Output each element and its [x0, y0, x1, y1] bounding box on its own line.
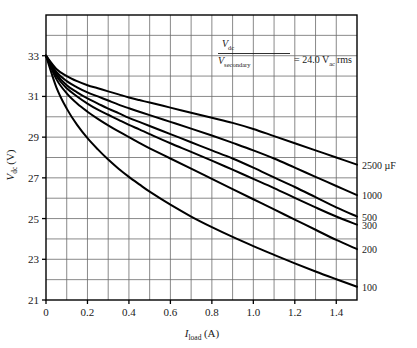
- y-tick-label: 25: [28, 213, 40, 225]
- series-label-200: 200: [362, 244, 377, 255]
- x-tick-label: 0.8: [205, 306, 219, 318]
- y-tick-label: 33: [28, 50, 40, 62]
- x-tick-label: 0.4: [122, 306, 136, 318]
- y-tick-label: 23: [28, 253, 40, 265]
- y-tick-label: 27: [28, 172, 40, 184]
- series-label-1000: 1000: [362, 190, 382, 201]
- x-tick-label: 1.2: [288, 306, 302, 318]
- chart-background: [0, 0, 417, 348]
- figure-container: 00.20.40.60.81.01.21.4 21232527293133 25…: [0, 0, 417, 348]
- y-tick-label: 29: [28, 131, 40, 143]
- series-label-300: 300: [362, 220, 377, 231]
- y-tick-label: 31: [28, 90, 39, 102]
- rectifier-output-voltage-chart: 00.20.40.60.81.01.21.4 21232527293133 25…: [0, 0, 417, 348]
- x-tick-label: 0.6: [164, 306, 178, 318]
- y-tick-label: 21: [28, 294, 39, 306]
- x-tick-label: 1.4: [329, 306, 343, 318]
- x-tick-label: 0: [43, 306, 49, 318]
- annotation-value: = 24.0 Vacrms: [294, 54, 352, 67]
- x-tick-label: 1.0: [246, 306, 260, 318]
- series-label-100: 100: [362, 282, 377, 293]
- x-tick-label: 0.2: [81, 306, 95, 318]
- series-label-2500-f: 2500 µF: [362, 160, 396, 171]
